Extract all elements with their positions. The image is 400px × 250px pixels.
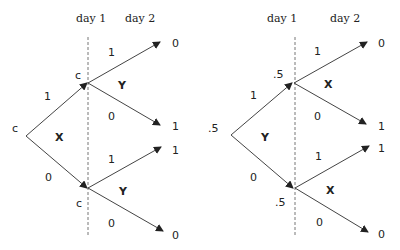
leaf-3: 1 [378,142,385,155]
root-edge-1: 1 [44,90,51,103]
edge-root-upper [26,83,87,136]
upper-edge-0: 0 [108,110,115,123]
upper-edge-1: 1 [108,46,115,59]
root-label: .5 [208,122,219,135]
leaf-1: 0 [172,37,179,50]
upper-edge-1: 1 [314,45,321,58]
day2-label: day 2 [330,12,360,25]
day1-label: day 1 [76,12,106,25]
lower-edge-1: 1 [108,153,115,166]
upper-var: Y [117,79,127,92]
leaf-3: 1 [172,144,179,157]
leaf-2: 1 [172,120,179,133]
diagram-canvas: day 1 day 2 c X 1 0 c Y 1 0 0 1 c Y 1 0 … [0,0,400,250]
lower-edge-0: 0 [108,217,115,230]
root-edge-1: 1 [250,89,257,102]
lower-var: Y [118,185,128,198]
upper-var: X [324,78,333,91]
root-edge-0: 0 [250,171,257,184]
upper-edge-0: 0 [314,110,321,123]
lower-edge-0: 0 [316,216,323,229]
edge-upper-1 [294,42,367,83]
root-edge-0: 0 [45,171,52,184]
leaf-1: 0 [378,37,385,50]
lower-edge-1: 1 [315,150,322,163]
left-tree: day 1 day 2 c X 1 0 c Y 1 0 0 1 c Y 1 0 … [12,12,179,242]
root-var: X [55,131,64,144]
lower-node-label: c [76,197,82,210]
edge-root-upper [231,83,292,135]
edge-lower-1 [295,146,369,188]
right-tree: day 1 day 2 .5 Y 1 0 .5 X 1 0 0 1 .5 X 1… [208,12,385,241]
day2-label: day 2 [125,12,155,25]
root-label: c [12,122,18,135]
upper-node-label: .5 [273,68,284,81]
leaf-2: 1 [378,120,385,133]
root-var: Y [260,131,270,144]
lower-var: X [326,184,335,197]
lower-node-label: .5 [275,196,286,209]
upper-node-label: c [75,69,81,82]
edge-lower-1 [88,147,161,188]
leaf-4: 0 [378,228,385,241]
leaf-4: 0 [172,229,179,242]
edge-upper-1 [88,42,160,83]
day1-label: day 1 [267,12,297,25]
probability-trees: day 1 day 2 c X 1 0 c Y 1 0 0 1 c Y 1 0 … [0,0,400,250]
